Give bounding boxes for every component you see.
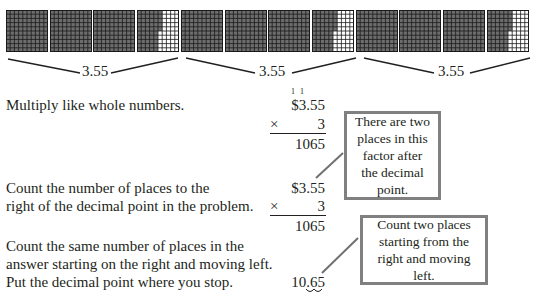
brace-2-right-stroke [292, 58, 356, 73]
multiplicand: $3.55 [291, 96, 325, 114]
hundredths-grid-partial [487, 10, 529, 52]
step-2-line-2: right of the decimal point in the proble… [6, 197, 253, 215]
hundredths-grid-partial [312, 10, 354, 52]
brace-label-3: 3.55 [436, 63, 466, 79]
brace-3-right-stroke [470, 58, 530, 73]
step-3-line-1: Count the same number of places in the [6, 237, 273, 255]
hundredths-grid-full [225, 10, 267, 52]
product: 1065 [295, 135, 325, 153]
sum-rule [270, 133, 326, 134]
hundredths-grid-full [443, 10, 485, 52]
callout-decimal-places: There are two places in this factor afte… [344, 111, 441, 200]
hundredths-grid-full [6, 10, 48, 52]
connector-line-2 [322, 238, 358, 273]
hundredths-grid-full [399, 10, 441, 52]
hundredths-grid-full [50, 10, 92, 52]
callout-count-places: Count two places starting from the right… [360, 215, 488, 285]
hundredths-grid-full [181, 10, 223, 52]
hundredths-grid-full [93, 10, 135, 52]
connector-line-1 [316, 153, 343, 178]
callout-text: There are two places in this factor afte… [353, 113, 432, 198]
answer: 10.65 [291, 273, 325, 291]
step-3-text: Count the same number of places in the a… [6, 237, 273, 291]
step-2-line-1: Count the number of places to the [6, 179, 253, 197]
multiply-sign: × [270, 197, 278, 215]
brace-label-1: 3.55 [80, 63, 110, 79]
step-2-text: Count the number of places to the right … [6, 179, 253, 215]
product: 1065 [295, 217, 325, 235]
multiplicand: $3.55 [291, 179, 325, 197]
hundredths-grid-full [356, 10, 398, 52]
step-3-line-2: answer starting on the right and moving … [6, 255, 273, 273]
callout-text: Count two places starting from the right… [369, 216, 479, 284]
carry-digit: 1 [300, 88, 304, 96]
multiplier: 3 [318, 197, 326, 215]
step-3-line-3: Put the decimal point where you stop. [6, 273, 273, 291]
multiply-sign: × [270, 115, 278, 133]
step-1-line-1: Multiply like whole numbers. [6, 96, 184, 114]
hundredths-grid-partial [137, 10, 179, 52]
brace-1-right-stroke [111, 58, 178, 73]
sum-rule [270, 215, 326, 216]
brace-1-left-stroke [8, 59, 80, 73]
carry-digit: 1 [291, 88, 295, 96]
brace-label-2: 3.55 [257, 63, 287, 79]
step-1-text: Multiply like whole numbers. [6, 96, 184, 114]
hundredths-grid-full [268, 10, 310, 52]
multiplier: 3 [318, 115, 326, 133]
brace-3-left-stroke [364, 58, 434, 73]
brace-2-left-stroke [186, 58, 255, 73]
